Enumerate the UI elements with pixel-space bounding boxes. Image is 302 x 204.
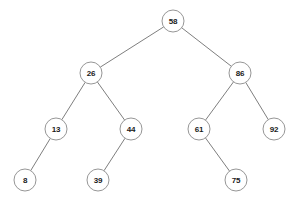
- node-label: 26: [87, 69, 96, 78]
- tree-node[interactable]: 86: [229, 62, 251, 84]
- node-label: 39: [94, 176, 103, 185]
- node-label: 13: [52, 125, 61, 134]
- tree-node[interactable]: 92: [263, 118, 285, 140]
- node-label: 92: [270, 125, 279, 134]
- tree-node[interactable]: 13: [45, 118, 67, 140]
- node-label: 44: [127, 125, 136, 134]
- tree-node[interactable]: 39: [87, 169, 109, 191]
- node-label: 61: [195, 125, 204, 134]
- tree-node[interactable]: 61: [188, 118, 210, 140]
- node-label: 58: [169, 17, 178, 26]
- node-label: 75: [232, 176, 241, 185]
- tree-node[interactable]: 58: [162, 10, 184, 32]
- node-label: 86: [236, 69, 245, 78]
- binary-tree-diagram: 5826861344619283975: [0, 0, 302, 204]
- tree-node[interactable]: 44: [120, 118, 142, 140]
- diagram-background: [0, 0, 302, 204]
- tree-node[interactable]: 75: [225, 169, 247, 191]
- tree-node[interactable]: 26: [80, 62, 102, 84]
- tree-node[interactable]: 8: [14, 169, 36, 191]
